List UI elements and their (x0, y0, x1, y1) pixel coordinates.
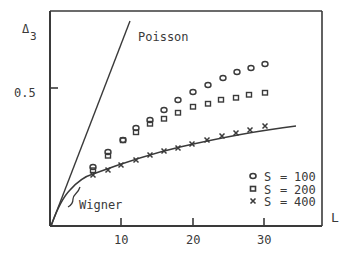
legend-s-400: S (264, 195, 271, 209)
legend: S = 100 S = 200 S = 400 (250, 170, 316, 209)
y-axis-label-subscript: 3 (30, 30, 37, 43)
series-s400 (91, 124, 268, 178)
y-tick-label-0.5: 0.5 (14, 86, 36, 100)
x-axis-label: L (331, 210, 339, 225)
legend-s-100: S (264, 170, 271, 184)
x-tick-label-20: 20 (186, 233, 200, 247)
legend-square-icon (251, 187, 256, 192)
poisson-label: Poisson (138, 30, 189, 44)
legend-eq-400: = (280, 195, 287, 209)
chart: Δ 3 0.5 10 20 30 L Poisson Wigner (0, 0, 352, 254)
x-tick-label-30: 30 (257, 233, 271, 247)
legend-val-400: 400 (294, 195, 316, 209)
legend-eq-100: = (280, 170, 287, 184)
legend-circle-icon (250, 174, 256, 179)
poisson-line (51, 21, 130, 226)
legend-cross-icon (251, 199, 256, 204)
legend-val-100: 100 (294, 170, 316, 184)
y-axis-label: Δ (22, 22, 30, 36)
x-tick-label-10: 10 (114, 233, 128, 247)
wigner-label: Wigner (79, 198, 122, 212)
